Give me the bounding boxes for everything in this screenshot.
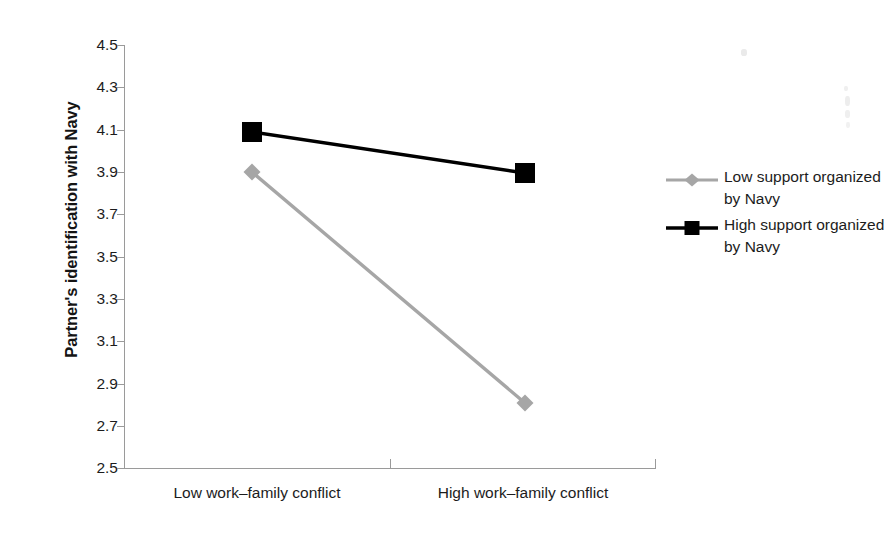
y-axis-tick-mark bbox=[117, 299, 125, 300]
legend-entry-low-support: Low support organized by Navy bbox=[666, 166, 891, 210]
y-axis-tick-mark bbox=[117, 214, 125, 215]
x-axis-category-label: High work–family conflict bbox=[403, 483, 643, 504]
y-axis-tick-label: 4.1 bbox=[74, 122, 118, 138]
legend-swatch bbox=[666, 173, 718, 187]
y-axis-tick-mark bbox=[117, 87, 125, 88]
y-axis-tick-mark bbox=[117, 130, 125, 131]
data-point-marker-square bbox=[242, 122, 262, 142]
scan-artifact-speck bbox=[741, 49, 747, 56]
line-chart-figure: Partner's identification with Navy 4.5 4… bbox=[0, 0, 895, 559]
x-axis-tick-mark bbox=[390, 459, 391, 469]
y-axis-tick-mark bbox=[117, 172, 125, 173]
data-point-marker-square bbox=[515, 163, 535, 183]
y-axis-tick-mark bbox=[117, 45, 125, 46]
chart-legend: Low support organized by Navy High suppo… bbox=[666, 166, 891, 262]
square-marker-icon bbox=[685, 221, 700, 235]
y-axis-tick-label: 3.7 bbox=[74, 206, 118, 222]
scan-artifact-speck bbox=[846, 122, 850, 128]
y-axis-tick-mark bbox=[117, 384, 125, 385]
scan-artifact-speck bbox=[844, 86, 848, 91]
series-low-support-line bbox=[252, 172, 525, 403]
y-axis-tick-mark bbox=[117, 341, 125, 342]
series-high-support-line bbox=[252, 132, 525, 173]
y-axis-tick-label: 3.1 bbox=[74, 333, 118, 349]
y-axis-tick-mark bbox=[117, 257, 125, 258]
y-axis-tick-label: 3.5 bbox=[74, 249, 118, 265]
plot-area bbox=[0, 0, 895, 559]
legend-swatch bbox=[666, 221, 718, 235]
series-high-support bbox=[242, 122, 535, 183]
y-axis-tick-label: 2.5 bbox=[74, 460, 118, 476]
y-axis-tick-mark bbox=[117, 426, 125, 427]
x-axis-category-label: Low work–family conflict bbox=[137, 483, 377, 504]
diamond-marker-icon bbox=[685, 174, 700, 187]
x-axis-tick-mark bbox=[124, 459, 125, 469]
legend-label: Low support organized by Navy bbox=[724, 166, 891, 210]
legend-entry-high-support: High support organized by Navy bbox=[666, 214, 891, 258]
y-axis-tick-label: 2.7 bbox=[74, 418, 118, 434]
data-point-marker-diamond bbox=[517, 395, 534, 412]
scan-artifact-speck bbox=[845, 110, 850, 118]
data-point-marker-diamond bbox=[244, 164, 261, 181]
y-axis-tick-label: 4.5 bbox=[74, 37, 118, 53]
y-axis-tick-label: 4.3 bbox=[74, 79, 118, 95]
x-axis-tick-mark bbox=[655, 459, 656, 469]
y-axis-tick-label: 2.9 bbox=[74, 376, 118, 392]
legend-label: High support organized by Navy bbox=[724, 214, 891, 258]
series-low-support bbox=[244, 164, 534, 412]
scan-artifact-speck bbox=[845, 96, 850, 106]
y-axis-tick-label-group: 4.5 4.3 4.1 3.9 3.7 3.5 3.3 3.1 2.9 2.7 … bbox=[66, 0, 118, 559]
y-axis-tick-label: 3.9 bbox=[74, 164, 118, 180]
y-axis-tick-label: 3.3 bbox=[74, 291, 118, 307]
